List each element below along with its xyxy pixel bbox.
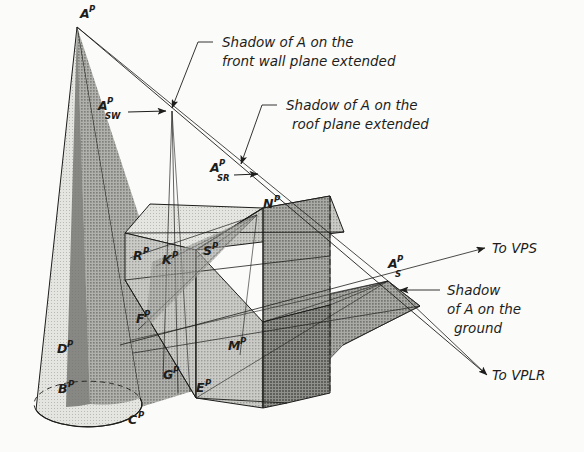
label-sub: SW	[105, 111, 121, 121]
annotation-wall-line2: front wall plane extended	[222, 53, 396, 69]
label-sub: SR	[217, 173, 230, 183]
annotation-ground-line2: of A on the	[447, 301, 521, 317]
label-sup: P	[173, 365, 180, 375]
annotation-roof-line2: roof plane extended	[292, 116, 429, 132]
annotation-ground-line1: Shadow	[447, 282, 501, 298]
label-base: S	[203, 243, 212, 258]
shadow-construction-diagram: Shadow of A on the front wall plane exte…	[0, 0, 584, 452]
label-sup: P	[172, 250, 179, 260]
label-base: N	[263, 196, 274, 211]
label-sup: P	[274, 194, 281, 204]
label-sup: P	[67, 339, 74, 349]
label-sup: P	[68, 379, 75, 389]
direction-label-vplr: To VPLR	[492, 367, 545, 383]
label-sup: P	[212, 241, 219, 251]
label-sup: P	[219, 158, 226, 168]
label-sub: S	[395, 269, 401, 279]
label-base: R	[133, 248, 143, 263]
annotation-wall-line1: Shadow of A on the	[222, 34, 354, 50]
label-sup: P	[144, 309, 151, 319]
label-base: G	[163, 367, 173, 382]
label-base: E	[196, 380, 205, 395]
figure-canvas: Shadow of A on the front wall plane exte…	[0, 0, 584, 452]
label-base: C	[128, 412, 138, 427]
direction-label-vps: To VPS	[492, 240, 538, 256]
annotation-roof-line1: Shadow of A on the	[286, 97, 418, 113]
label-base: D	[57, 341, 67, 356]
label-sup: P	[138, 410, 145, 420]
label-sup: P	[89, 4, 96, 14]
label-sup: P	[397, 254, 404, 264]
label-sup: P	[143, 246, 150, 256]
label-sup: P	[107, 96, 114, 106]
right-side-wall	[263, 305, 330, 408]
label-sup: P	[240, 336, 247, 346]
label-base: B	[58, 381, 68, 396]
annotation-ground-line3: ground	[454, 320, 502, 336]
label-sup: P	[205, 378, 212, 388]
